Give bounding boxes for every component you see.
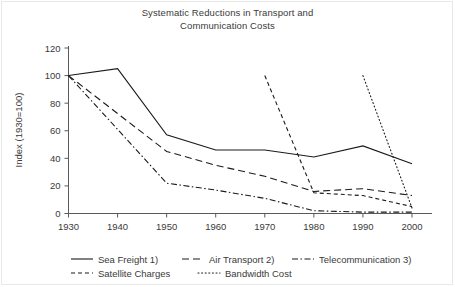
y-tick-label: 60	[50, 125, 61, 136]
x-tick-label: 1980	[303, 221, 324, 232]
chart-legend: Sea Freight 1)Air Transport 2)Telecommun…	[71, 254, 411, 279]
series-line	[69, 69, 413, 164]
series-line	[363, 76, 412, 208]
y-axis-ticks	[65, 48, 69, 214]
chart-plot-area: 020406080100120 Index (1930=100) 1930194…	[0, 0, 455, 287]
x-axis-ticks	[69, 214, 413, 218]
chart-svg: 020406080100120 Index (1930=100) 1930194…	[0, 0, 455, 287]
x-tick-label: 1930	[58, 221, 79, 232]
x-axis-tick-labels: 19301940195019601970198019902000	[58, 221, 423, 232]
y-tick-label: 100	[45, 70, 61, 81]
legend-label: Sea Freight 1)	[98, 254, 158, 265]
y-tick-label: 40	[50, 153, 61, 164]
legend-label: Satellite Charges	[98, 268, 171, 279]
x-tick-label: 1970	[254, 221, 275, 232]
series-line	[69, 76, 413, 213]
y-axis-title: Index (1930=100)	[13, 93, 24, 168]
series-line	[69, 76, 413, 196]
x-tick-label: 1960	[205, 221, 226, 232]
legend-label: Air Transport 2)	[209, 254, 274, 265]
legend-label: Telecommunication 3)	[319, 254, 411, 265]
x-tick-label: 2000	[401, 221, 422, 232]
x-tick-label: 1940	[107, 221, 128, 232]
legend-label: Bandwidth Cost	[225, 268, 292, 279]
x-tick-label: 1990	[352, 221, 373, 232]
data-series-group	[69, 69, 413, 212]
y-tick-label: 120	[45, 43, 61, 54]
y-axis: 020406080100120 Index (1930=100)	[13, 43, 69, 220]
series-line	[265, 76, 412, 207]
y-tick-label: 80	[50, 98, 61, 109]
y-tick-label: 0	[55, 208, 60, 219]
y-axis-tick-labels: 020406080100120	[45, 43, 61, 220]
y-tick-label: 20	[50, 180, 61, 191]
x-axis: 19301940195019601970198019902000	[58, 214, 432, 232]
x-tick-label: 1950	[156, 221, 177, 232]
